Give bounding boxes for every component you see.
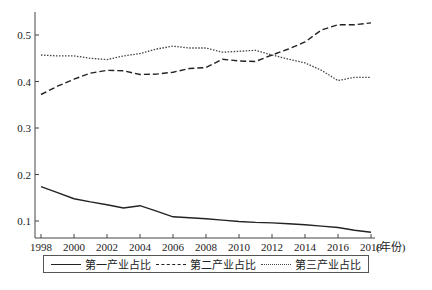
legend-item-tertiary: 第三产业占比 (261, 256, 361, 272)
y-tick-label: 0.2 (17, 169, 31, 181)
series-line-2 (41, 23, 371, 95)
y-tick-label: 0.3 (17, 122, 31, 134)
legend: 第一产业占比 第二产业占比 第三产业占比 (43, 255, 369, 273)
x-tick-label: 2000 (63, 241, 86, 253)
line-chart: 0.10.20.30.40.5 199820002002200420062008… (0, 0, 432, 290)
x-tick-label: 2016 (327, 241, 350, 253)
x-tick-label: 2004 (129, 241, 152, 253)
legend-label: 第一产业占比 (85, 256, 151, 272)
dashed-line-swatch-icon (156, 264, 186, 265)
y-tick-label: 0.1 (17, 215, 31, 227)
y-axis-ticks: 0.10.20.30.40.5 (17, 29, 39, 227)
y-tick-label: 0.4 (17, 76, 31, 88)
legend-label: 第二产业占比 (190, 256, 256, 272)
x-tick-label: 2010 (228, 241, 251, 253)
x-tick-label: 2002 (96, 241, 118, 253)
legend-item-primary: 第一产业占比 (51, 256, 151, 272)
x-axis-unit-label: (年份) (376, 240, 406, 254)
legend-item-secondary: 第二产业占比 (156, 256, 256, 272)
y-tick-label: 0.5 (17, 29, 31, 41)
x-tick-label: 2008 (195, 241, 218, 253)
dotted-line-swatch-icon (261, 264, 291, 265)
x-tick-label: 2014 (294, 241, 317, 253)
x-tick-label: 1998 (30, 241, 53, 253)
x-tick-label: 2006 (162, 241, 185, 253)
x-axis-ticks: 1998200020022004200620082010201220142016… (30, 234, 383, 253)
series-lines (41, 23, 371, 232)
solid-line-swatch-icon (51, 264, 81, 265)
series-line-3 (41, 46, 371, 80)
x-tick-label: 2012 (261, 241, 283, 253)
series-line-1 (41, 187, 371, 233)
legend-label: 第三产业占比 (295, 256, 361, 272)
